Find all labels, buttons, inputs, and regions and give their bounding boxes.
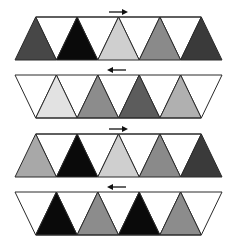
triangle-diagram bbox=[0, 0, 232, 247]
arrow-right-icon bbox=[109, 9, 128, 15]
arrow-left-icon bbox=[107, 67, 126, 73]
arrow-right-icon bbox=[109, 126, 128, 132]
arrow-left-icon bbox=[107, 184, 126, 190]
diagram-canvas bbox=[0, 0, 232, 247]
